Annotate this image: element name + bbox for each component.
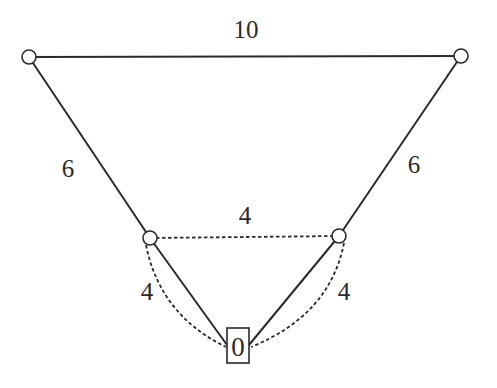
label-left-upper-edge: 6 xyxy=(62,155,75,182)
label-top-edge: 10 xyxy=(234,16,259,43)
label-middle-dashed-edge: 4 xyxy=(239,202,252,229)
label-left-lower-edge: 4 xyxy=(141,278,154,305)
graph-diagram: 0 10 6 6 4 4 4 xyxy=(0,0,497,388)
edge-left-upper xyxy=(29,57,150,238)
root-node-label: 0 xyxy=(231,332,245,362)
node-top-left xyxy=(22,50,36,64)
edge-left-lower-dashed xyxy=(146,245,226,347)
edge-middle-dashed xyxy=(150,236,339,238)
edge-right-upper xyxy=(339,56,461,236)
edge-top xyxy=(29,56,461,57)
label-right-lower-edge: 4 xyxy=(338,278,351,305)
edge-left-lower-solid xyxy=(150,238,227,345)
label-right-upper-edge: 6 xyxy=(408,151,421,178)
node-top-right xyxy=(454,49,468,63)
node-mid-left xyxy=(143,231,157,245)
node-mid-right xyxy=(332,229,346,243)
edge-right-lower-dashed xyxy=(251,243,344,347)
